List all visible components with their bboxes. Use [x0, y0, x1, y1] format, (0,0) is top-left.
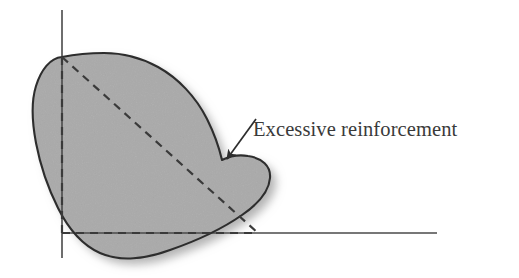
excessive-reinforcement-label: Excessive reinforcement [253, 118, 458, 140]
figure-canvas: Excessive reinforcement [0, 0, 519, 278]
weld-cross-section-figure: Excessive reinforcement [0, 0, 519, 278]
leader-arrow-icon [227, 119, 256, 159]
